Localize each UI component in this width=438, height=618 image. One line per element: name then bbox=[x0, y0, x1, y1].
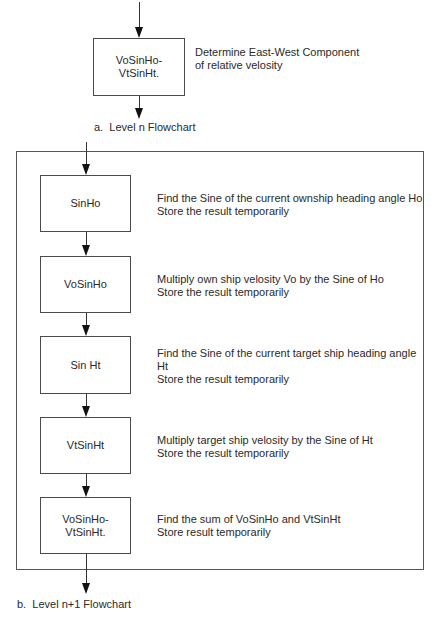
level-n-plus-1-caption: b. Level n+1 Flowchart bbox=[17, 598, 131, 611]
step-label: Sin Ht bbox=[71, 359, 101, 372]
exit-line bbox=[86, 554, 87, 584]
level-n-process-label: VoSinHo- VtSinHt. bbox=[116, 54, 162, 80]
step-description: Find the sum of VoSinHo and VtSinHt Stor… bbox=[157, 513, 340, 539]
step-label: VtSinHt bbox=[67, 439, 104, 452]
connector-arrowhead-icon bbox=[82, 486, 90, 497]
entry-line bbox=[86, 142, 87, 165]
step-box-vosinho: VoSinHo bbox=[40, 256, 131, 313]
step-description: Find the Sine of the current ownship hea… bbox=[157, 192, 422, 218]
step-box-vtsinht: VtSinHt bbox=[40, 417, 131, 474]
step-box-sinht: Sin Ht bbox=[40, 336, 131, 394]
level-n-entry-line bbox=[139, 2, 140, 28]
step-label: VoSinHo bbox=[64, 278, 107, 291]
step-description: Find the Sine of the current target ship… bbox=[157, 347, 416, 386]
connector-arrowhead-icon bbox=[82, 406, 90, 417]
step-box-sinho: SinHo bbox=[40, 175, 131, 232]
entry-arrowhead-icon bbox=[82, 164, 90, 175]
connector-arrowhead-icon bbox=[82, 325, 90, 336]
level-n-caption: a. Level n Flowchart bbox=[94, 121, 196, 134]
step-description: Multiply own ship velosity Vo by the Sin… bbox=[157, 273, 384, 299]
level-n-description: Determine East-West Component of relativ… bbox=[195, 46, 359, 72]
step-label: VoSinHo- VtSinHt. bbox=[62, 513, 108, 539]
connector-line bbox=[86, 232, 87, 246]
level-n-process-box: VoSinHo- VtSinHt. bbox=[93, 38, 185, 96]
connector-arrowhead-icon bbox=[82, 245, 90, 256]
exit-arrowhead-icon bbox=[82, 583, 90, 594]
level-n-entry-arrowhead-icon bbox=[135, 27, 143, 38]
step-box-vosinho-vtsinht: VoSinHo- VtSinHt. bbox=[40, 497, 131, 554]
level-n-exit-arrowhead-icon bbox=[135, 108, 143, 119]
step-description: Multiply target ship velosity by the Sin… bbox=[157, 434, 373, 460]
step-label: SinHo bbox=[71, 197, 101, 210]
connector-line bbox=[86, 474, 87, 486]
